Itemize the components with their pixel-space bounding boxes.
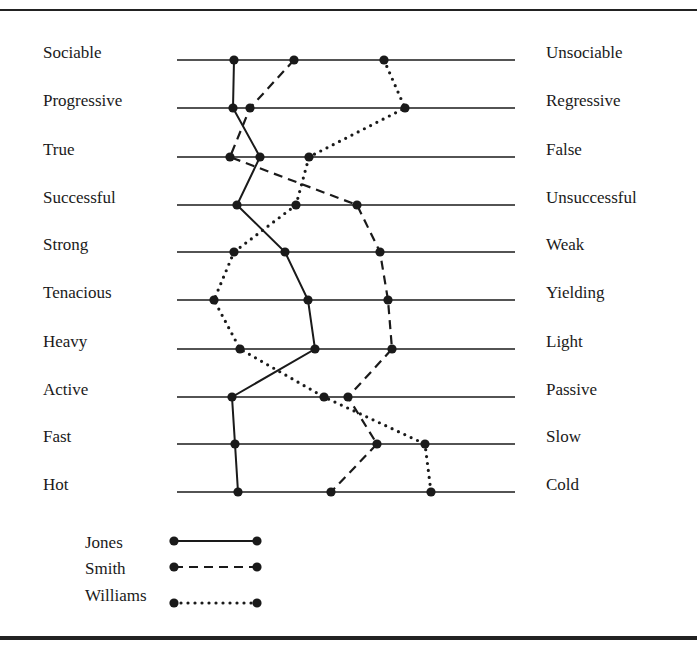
legend-marker (169, 536, 178, 545)
data-point-smith (375, 247, 384, 256)
data-point-jones (280, 247, 289, 256)
data-point-jones (310, 344, 319, 353)
semantic-differential-plot (0, 0, 697, 652)
data-point-smith (225, 152, 234, 161)
data-point-williams (229, 247, 238, 256)
data-point-jones (232, 200, 241, 209)
data-point-jones (229, 55, 238, 64)
data-point-williams (420, 439, 429, 448)
legend-label-jones: Jones (85, 533, 123, 553)
data-point-smith (245, 103, 254, 112)
data-point-smith (387, 344, 396, 353)
legend-label-smith: Smith (85, 559, 126, 579)
data-point-jones (303, 295, 312, 304)
data-point-smith (289, 55, 298, 64)
legend-marker (169, 562, 178, 571)
legend-label-williams: Williams (85, 586, 147, 606)
data-point-jones (227, 392, 236, 401)
data-point-williams (235, 344, 244, 353)
data-point-smith (383, 295, 392, 304)
bottom-border-rule (0, 636, 697, 640)
data-point-williams (319, 392, 328, 401)
series-line-jones (232, 60, 315, 492)
series-line-smith (230, 60, 392, 492)
legend-marker (169, 598, 178, 607)
series-line-williams (214, 60, 431, 492)
data-point-williams (291, 200, 300, 209)
data-point-williams (426, 487, 435, 496)
data-point-jones (230, 439, 239, 448)
legend-marker (252, 536, 261, 545)
legend-marker (252, 598, 261, 607)
data-point-smith (352, 200, 361, 209)
data-point-williams (209, 295, 218, 304)
data-point-smith (372, 439, 381, 448)
data-point-smith (343, 392, 352, 401)
legend-marker (252, 562, 261, 571)
data-point-williams (304, 152, 313, 161)
data-point-jones (233, 487, 242, 496)
data-point-smith (326, 487, 335, 496)
data-point-jones (255, 152, 264, 161)
data-point-williams (400, 103, 409, 112)
data-point-williams (379, 55, 388, 64)
data-point-jones (228, 103, 237, 112)
